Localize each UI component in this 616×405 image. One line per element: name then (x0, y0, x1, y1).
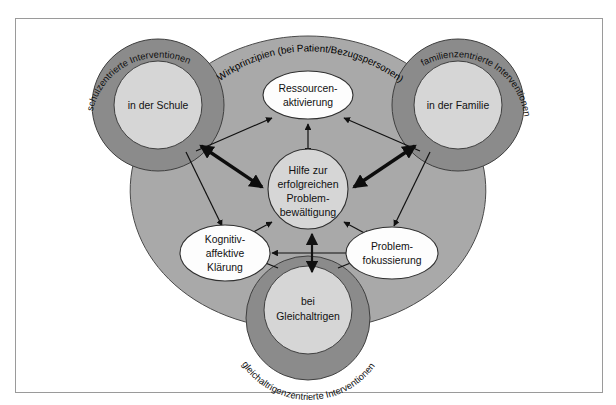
problemfokus-line-2: fokussierung (363, 255, 422, 266)
hub-line-3: Problem- (287, 192, 330, 204)
core-label-gleichaltrige-line1: bei (301, 296, 315, 307)
corner-familie[interactable]: familienzentrierte Interventionen in der… (392, 39, 533, 171)
principle-ressourcenaktivierung[interactable]: Ressourcen- aktivierung (263, 71, 353, 119)
hub-hilfe[interactable]: Hilfe zur erfolgreichen Problem- bewälti… (268, 149, 348, 229)
core-label-familie: in der Familie (427, 100, 490, 111)
core-label-gleichaltrige-line2: Gleichaltrigen (276, 311, 340, 322)
hub-line-4: bewältigung (280, 206, 337, 218)
principle-problemfokussierung[interactable]: Problem- fokussierung (346, 227, 438, 279)
corner-schule[interactable]: schulzentrierte Interventionen in der Sc… (84, 39, 224, 171)
hub-line-1: Hilfe zur (289, 164, 328, 176)
problemfokus-line-1: Problem- (371, 241, 413, 252)
figure-canvas: schulzentrierte Interventionen in der Sc… (0, 0, 616, 405)
diagram-svg: schulzentrierte Interventionen in der Sc… (0, 0, 616, 405)
ressourcen-line-1: Ressourcen- (279, 83, 338, 94)
core-label-schule: in der Schule (128, 100, 189, 111)
kognitiv-line-3: Klärung (207, 262, 243, 273)
kognitiv-line-2: affektive (206, 248, 245, 259)
principle-kognitiv-affektive-klaerung[interactable]: Kognitiv- affektive Klärung (180, 225, 270, 281)
kognitiv-line-1: Kognitiv- (205, 234, 245, 245)
ressourcen-line-2: aktivierung (283, 97, 333, 108)
hub-line-2: erfolgreichen (277, 178, 338, 190)
